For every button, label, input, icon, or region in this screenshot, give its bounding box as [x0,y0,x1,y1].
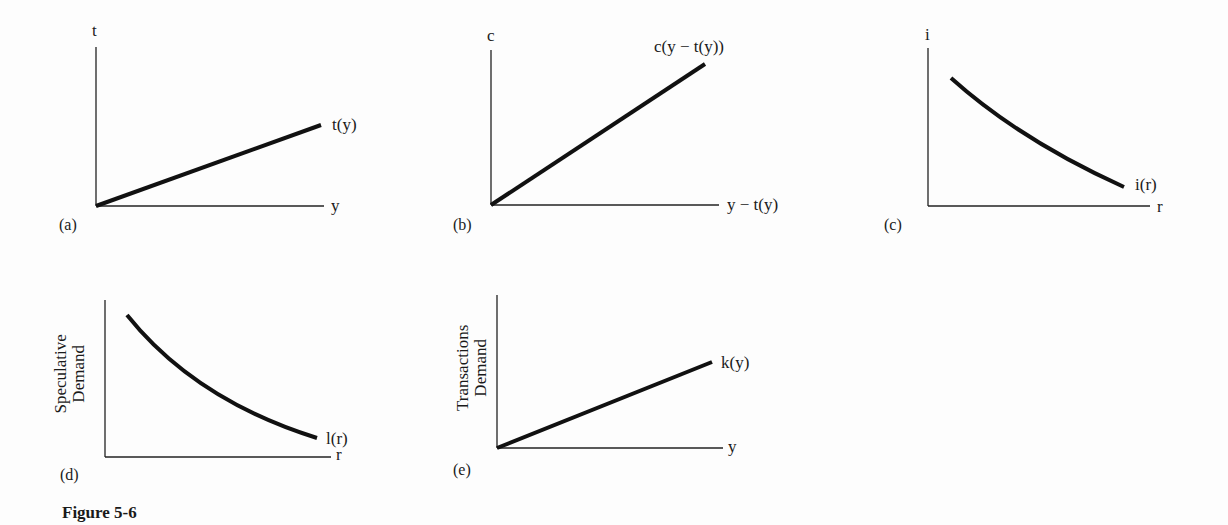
panel-e-y-axis-label: Transactions Demand [454,308,490,428]
panel-e-curve [497,362,712,448]
panel-b-curve [491,64,705,205]
figure-caption: Figure 5-6 [62,503,137,523]
panel-a-curve-label: t(y) [332,116,357,133]
panel-b-curve-label: c(y − t(y)) [654,38,724,55]
panel-c-x-axis-label: r [1157,198,1163,215]
panel-e-y-axis-label-line2: Demand [472,308,490,428]
panel-a-curve [96,125,321,206]
panel-c-y-axis-label: i [925,26,930,43]
panel-b-y-axis-label: c [487,27,495,44]
panel-e-label: (e) [453,462,471,478]
panel-e-x-axis-label: y [728,438,737,455]
panel-d-x-axis-label: r [336,446,342,463]
panel-b-label: (b) [453,217,472,233]
panel-d-y-axis-label-line1: Speculative [52,324,70,424]
panel-d-curve [127,315,317,438]
panel-d-label: (d) [60,467,79,483]
panel-a-y-axis-label: t [92,22,97,39]
panel-e-curve-label: k(y) [721,354,749,371]
panel-a-axes [96,47,324,206]
figure-graphics [0,0,1228,525]
panel-d-y-axis-label-line2: Demand [70,324,88,424]
panel-a-label: (a) [59,217,77,233]
panel-b-x-axis-label: y − t(y) [727,196,778,213]
panel-c-label: (c) [884,217,902,233]
panel-c-curve [951,78,1124,187]
panel-e-y-axis-label-line1: Transactions [454,308,472,428]
panel-a-x-axis-label: y [331,197,340,214]
panel-c-curve-label: i(r) [1135,176,1157,193]
panel-d-y-axis-label: Speculative Demand [52,324,88,424]
